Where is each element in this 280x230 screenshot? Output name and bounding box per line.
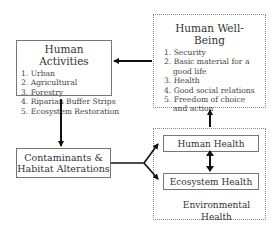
- arrow-contaminants-to-health: [111, 144, 158, 179]
- double-arrow-health: [206, 150, 214, 172]
- connector-arrows: [0, 0, 280, 230]
